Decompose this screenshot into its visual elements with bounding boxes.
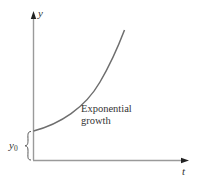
initial-value-brace <box>25 132 31 161</box>
y-axis-arrow-icon <box>31 11 36 19</box>
x-axis-label: t <box>182 166 185 177</box>
x-axis-arrow-icon <box>181 158 189 163</box>
curve-label-line-1: Exponential <box>81 103 132 115</box>
exponential-growth-diagram: y t Exponential growth y0 <box>0 0 201 177</box>
curve-label: Exponential growth <box>81 103 132 127</box>
diagram-canvas <box>0 0 201 177</box>
initial-value-label: y0 <box>9 140 18 153</box>
y-axis-label: y <box>38 8 43 19</box>
initial-value-subscript: 0 <box>14 144 18 153</box>
curve-label-line-2: growth <box>81 115 132 127</box>
